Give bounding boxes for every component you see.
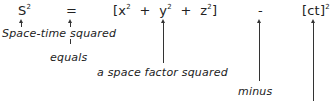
space-factor-term: [x2 + y2 + z2] <box>113 3 217 18</box>
arrow-line <box>313 22 314 101</box>
arrow-line <box>163 22 164 63</box>
equals-sign: = <box>66 3 77 18</box>
minus-sign: - <box>258 3 263 18</box>
label-minus: minus <box>238 85 272 98</box>
term-s-squared: S2 <box>18 3 31 18</box>
label-spacetime-squared: Space-time squared <box>2 27 116 40</box>
arrow-line <box>259 22 260 81</box>
ct-squared-term: [ct]2 <box>302 3 330 18</box>
label-space-factor-squared: a space factor squared <box>97 66 228 79</box>
label-equals: equals <box>50 51 87 64</box>
